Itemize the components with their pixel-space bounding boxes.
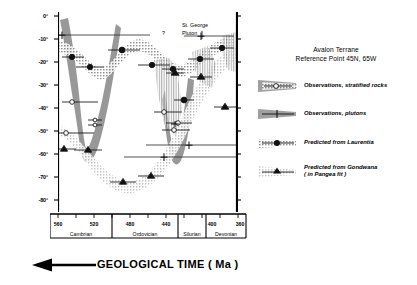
time-direction-arrow [30,258,100,272]
legend-subtitle: Reference Point 45N, 65W [256,55,416,62]
plot-svg [58,12,238,212]
y-tick-label: -30° [28,82,48,88]
y-tick-label: -10° [28,36,48,42]
x-axis-title: GEOLOGICAL TIME ( Ma ) [97,258,238,270]
legend: Avalon Terrane Reference Point 45N, 65W … [256,46,416,62]
period-label-devonian: Devonian [206,231,246,237]
legend-label: Predicted from Laurentia [304,139,374,146]
y-tick-label: 0° [28,13,48,19]
y-tick-label: -40° [28,105,48,111]
y-axis-ticks [51,10,65,214]
x-axis [50,212,250,246]
legend-symbol-open-circle [256,75,300,97]
legend-symbol-filled-triangle [256,160,300,182]
legend-symbol-plus [256,103,300,125]
x-tick-label: 520 [84,221,104,227]
legend-item-predicted-laurentia: Predicted from Laurentia [256,132,374,154]
y-tick-label: -20° [28,59,48,65]
legend-label: Observations, stratified rocks [304,82,387,89]
y-tick-label: -70° [28,174,48,180]
x-tick-label: 480 [120,221,140,227]
annotation-leader-line [176,26,236,42]
legend-label: Predicted from Gondwana [304,164,377,171]
period-label-silurian: Silurian [178,231,206,237]
legend-item-predicted-gondwana: Predicted from Gondwana ( in Pangea fit … [256,160,377,182]
legend-item-observations-plutons: Observations, plutons [256,103,366,125]
legend-item-observations-stratified: Observations, stratified rocks [256,75,387,97]
x-tick-label: 400 [202,221,222,227]
annotation-question-mark: ? [162,30,165,36]
chart-figure: PALEOLATITUDE [0,0,417,285]
legend-label: Observations, plutons [304,110,366,117]
x-tick-label: 360 [230,221,250,227]
plot-area: 0° -10° -20° -30° -40° -50° -60° -70° -8… [58,12,238,212]
y-tick-label: -60° [28,151,48,157]
period-label-cambrian: Cambrian [50,231,112,237]
x-tick-label: 440 [156,221,176,227]
legend-label-secondary: ( in Pangea fit ) [304,171,377,178]
y-tick-label: -50° [28,128,48,134]
legend-symbol-filled-circle [256,132,300,154]
legend-title: Avalon Terrane [256,46,416,53]
period-label-ordovician: Ordovician [112,231,178,237]
y-tick-label: -80° [28,197,48,203]
x-tick-label: 560 [48,221,68,227]
